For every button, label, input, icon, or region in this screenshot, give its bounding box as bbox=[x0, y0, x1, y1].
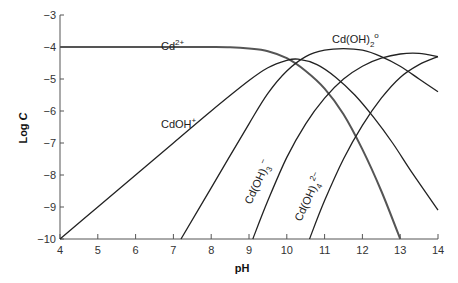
y-tick-label: −5 bbox=[43, 73, 56, 85]
curve-cdoh4-2minus bbox=[310, 57, 439, 239]
y-tick-label: −7 bbox=[43, 137, 56, 149]
label-cdoh4-2minus: Cd(OH)42− bbox=[290, 170, 328, 225]
curve-cd2plus bbox=[60, 47, 400, 239]
x-tick-label: 4 bbox=[57, 244, 63, 256]
y-axis-title: Log C bbox=[17, 111, 29, 143]
x-tick-label: 8 bbox=[208, 244, 214, 256]
x-tick-label: 14 bbox=[432, 244, 444, 256]
x-tick-label: 12 bbox=[356, 244, 368, 256]
curves bbox=[60, 47, 438, 239]
y-tick-label: −8 bbox=[43, 169, 56, 181]
x-axis-title: pH bbox=[235, 262, 250, 274]
y-tick-label: −4 bbox=[43, 41, 56, 53]
curve-cdoh3-minus bbox=[253, 53, 438, 239]
label-cdoh3-minus: Cd(OH)3− bbox=[240, 157, 276, 208]
x-tick-label: 5 bbox=[95, 244, 101, 256]
label-cd2plus: Cd2+ bbox=[161, 38, 185, 52]
x-tick-label: 6 bbox=[133, 244, 139, 256]
label-cdoh-plus: CdOH+ bbox=[161, 116, 197, 130]
curve-cdoh-plus bbox=[60, 59, 438, 239]
x-tick-label: 9 bbox=[246, 244, 252, 256]
speciation-chart: 4567891011121314−3−4−5−6−7−8−9−10 Cd2+ C… bbox=[0, 0, 458, 283]
x-tick-label: 7 bbox=[170, 244, 176, 256]
y-tick-label: −3 bbox=[43, 9, 56, 21]
y-tick-label: −10 bbox=[37, 233, 56, 245]
label-cdoh2: Cd(OH)2o bbox=[332, 31, 379, 49]
x-tick-label: 10 bbox=[281, 244, 293, 256]
x-tick-label: 13 bbox=[394, 244, 406, 256]
y-tick-label: −9 bbox=[43, 201, 56, 213]
x-tick-label: 11 bbox=[319, 244, 330, 256]
y-tick-label: −6 bbox=[43, 105, 56, 117]
curve-cdoh2 bbox=[181, 49, 438, 239]
